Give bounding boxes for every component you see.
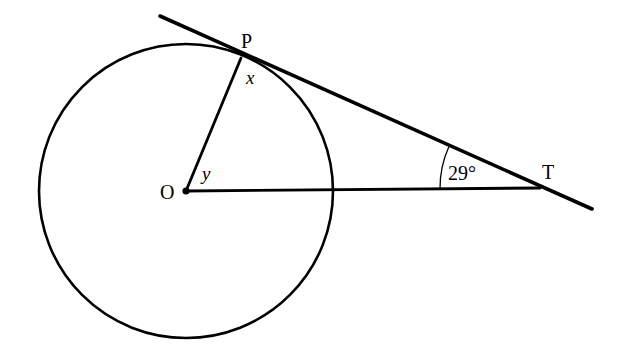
label-angle-x: x: [246, 68, 254, 87]
geometry-figure-canvas: O P T x y 29°: [0, 0, 617, 356]
label-angle-y: y: [202, 164, 210, 183]
label-angle-29-degrees: 29°: [448, 163, 476, 183]
center-point-dot: [182, 187, 189, 194]
segment-o-to-t: [186, 188, 540, 191]
circle-tangent-diagram: [0, 0, 617, 356]
radius-o-to-p: [186, 58, 241, 191]
label-point-p: P: [241, 31, 252, 51]
label-point-t: T: [542, 162, 554, 182]
tangent-line: [160, 16, 592, 209]
label-center-o: O: [160, 182, 174, 202]
